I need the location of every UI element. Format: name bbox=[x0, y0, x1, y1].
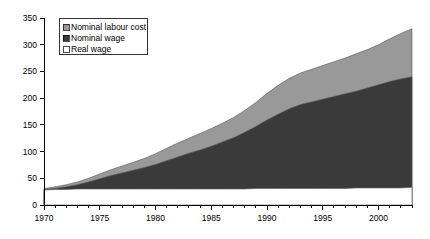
y-tick-label: 200 bbox=[23, 93, 37, 103]
y-tick-label: 0 bbox=[32, 200, 37, 210]
x-tick-label: 2000 bbox=[369, 213, 388, 223]
y-tick-label: 50 bbox=[28, 173, 38, 183]
chart-legend: Nominal labour costNominal wageReal wage bbox=[59, 18, 147, 54]
y-tick-label: 100 bbox=[23, 147, 37, 157]
y-tick-label: 350 bbox=[23, 13, 37, 23]
legend-swatch bbox=[63, 46, 69, 52]
x-axis: 1970197519801985199019952000 bbox=[35, 205, 412, 223]
x-tick-label: 1975 bbox=[90, 213, 109, 223]
x-tick-label: 1990 bbox=[258, 213, 277, 223]
y-tick-label: 300 bbox=[23, 40, 37, 50]
plot-areas bbox=[44, 29, 412, 205]
series-area-nominal-wage bbox=[44, 77, 412, 205]
area-chart: 050100150200250300350 197019751980198519… bbox=[0, 0, 430, 239]
legend-label: Real wage bbox=[71, 44, 111, 54]
y-tick-label: 250 bbox=[23, 66, 37, 76]
x-tick-label: 1995 bbox=[313, 213, 332, 223]
series-area-real-wage bbox=[44, 187, 412, 205]
x-tick-label: 1970 bbox=[35, 213, 54, 223]
legend-swatch bbox=[63, 24, 69, 30]
chart-container: 050100150200250300350 197019751980198519… bbox=[0, 0, 430, 239]
legend-label: Nominal labour cost bbox=[71, 22, 147, 32]
y-tick-label: 150 bbox=[23, 120, 37, 130]
legend-label: Nominal wage bbox=[71, 33, 125, 43]
legend-swatch bbox=[63, 35, 69, 41]
x-tick-label: 1980 bbox=[146, 213, 165, 223]
x-tick-label: 1985 bbox=[202, 213, 221, 223]
y-axis: 050100150200250300350 bbox=[23, 13, 44, 210]
